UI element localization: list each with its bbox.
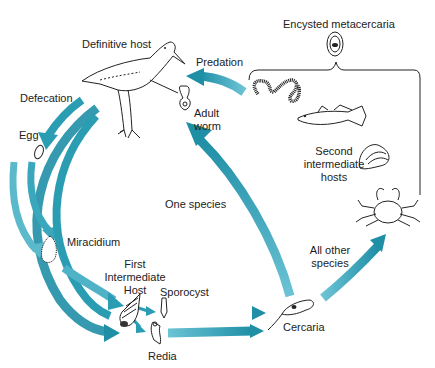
sporocyst-icon [161, 298, 167, 318]
label-all-other-species: All other species [304, 244, 356, 270]
bird-icon [82, 42, 185, 138]
redia-icon [151, 322, 160, 344]
egg-icon [33, 144, 45, 160]
label-encysted-metacercaria: Encysted metacercaria [283, 18, 395, 31]
label-sporocyst: Sporocyst [160, 286, 209, 299]
miracidium-icon [41, 236, 56, 263]
fish-icon [298, 105, 366, 126]
label-cercaria: Cercaria [283, 321, 325, 334]
label-redia: Redia [148, 350, 177, 363]
label-second-intermediate-hosts: Second intermediate hosts [294, 145, 374, 184]
life-cycle-diagram: Definitive host Predation Encysted metac… [0, 0, 435, 368]
label-adult-worm: Adult worm [194, 107, 221, 133]
arrow-redia-to-cercaria [168, 324, 264, 338]
arrow-sporocyst-to-cercaria [176, 306, 266, 320]
adult-worm-icon [180, 86, 191, 110]
crab-icon [356, 188, 420, 226]
arrow-predation [186, 68, 244, 92]
metacercaria-icon [327, 32, 343, 56]
label-one-species: One species [165, 198, 226, 211]
label-defecation: Defecation [20, 92, 73, 105]
label-miracidium: Miracidium [67, 236, 120, 249]
label-definitive-host: Definitive host [82, 38, 151, 51]
label-first-intermediate-host: First Intermediate Host [104, 258, 166, 297]
label-predation: Predation [196, 56, 243, 69]
tubeworm-icon [254, 80, 299, 101]
label-egg: Egg [19, 129, 39, 142]
